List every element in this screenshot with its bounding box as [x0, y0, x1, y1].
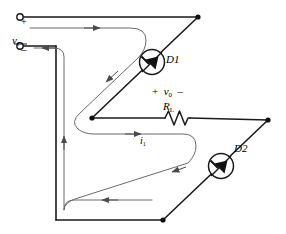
- junction-dot-icon-bottom: [160, 217, 165, 222]
- current-arrow-down-left-icon-upper: [106, 71, 118, 82]
- current-path-bottom: [64, 200, 152, 210]
- junction-dot-icon-top-right: [195, 14, 200, 19]
- load-resistor-label: RL: [163, 101, 174, 114]
- current-label: i1: [140, 136, 146, 147]
- diode2-label: D2: [234, 143, 247, 154]
- diode1-label: D1: [166, 54, 179, 65]
- diode2-symbol[interactable]: [209, 154, 234, 179]
- wire-load-right: [190, 118, 268, 120]
- output-voltage-label: + v0 –: [152, 86, 183, 99]
- junction-dot-icon-mid-left: [89, 115, 94, 120]
- junction-dot-icon-mid-right: [265, 117, 270, 122]
- terminal-minus-label: –: [21, 44, 27, 55]
- terminal-plus-label: +: [21, 17, 27, 27]
- source-voltage-label: vi: [12, 35, 19, 48]
- circuit-schematic-svg: [0, 0, 286, 234]
- circuit-diagram: + vi – D1 D2 + v0 – RL i1: [0, 0, 286, 234]
